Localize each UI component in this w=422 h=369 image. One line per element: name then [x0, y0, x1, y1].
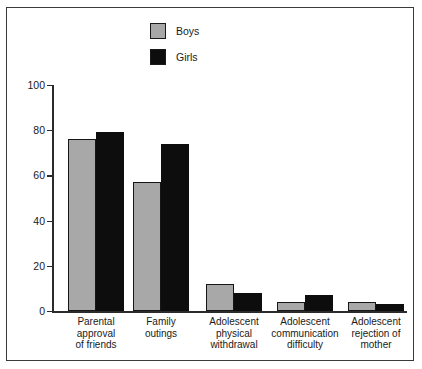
legend-label-girls: Girls: [176, 52, 198, 63]
black-swatch-icon: [150, 49, 166, 65]
bar-chart-figure: Boys Girls 100806040200 Parentalapproval…: [0, 0, 422, 369]
bar-group: [348, 85, 404, 311]
bar-group: [277, 85, 333, 311]
y-tick-label: 40: [33, 215, 45, 227]
bar-group: [206, 85, 262, 311]
bar-boys: [277, 302, 305, 311]
legend-label-boys: Boys: [176, 26, 199, 37]
y-tick-mark: [47, 175, 52, 176]
category-label-line: mother: [331, 339, 421, 351]
y-tick-mark: [47, 130, 52, 131]
bar-girls: [96, 132, 124, 311]
y-tick-mark: [47, 221, 52, 222]
y-axis-line: [52, 85, 54, 311]
legend-item-boys: Boys: [150, 20, 260, 42]
y-tick-label: 100: [27, 79, 45, 91]
bar-group: [68, 85, 124, 311]
y-tick-label: 60: [33, 169, 45, 181]
bar-girls: [305, 295, 333, 311]
legend-item-girls: Girls: [150, 46, 260, 68]
category-label: Adolescentrejection ofmother: [331, 316, 421, 351]
bar-girls: [234, 293, 262, 311]
y-tick-label: 80: [33, 124, 45, 136]
category-label-line: rejection of: [331, 328, 421, 340]
x-axis-line: [52, 311, 407, 313]
y-tick-mark: [47, 311, 52, 312]
plot-area: 100806040200: [52, 85, 407, 311]
y-tick-mark: [47, 266, 52, 267]
category-label-line: of friends: [51, 339, 141, 351]
bar-girls: [161, 144, 189, 311]
bar-boys: [68, 139, 96, 311]
bar-girls: [376, 304, 404, 311]
bar-group: [133, 85, 189, 311]
category-label-line: Adolescent: [331, 316, 421, 328]
y-tick-label: 0: [39, 305, 45, 317]
chart-legend: Boys Girls: [150, 20, 260, 72]
y-tick-mark: [47, 85, 52, 86]
y-tick-label: 20: [33, 260, 45, 272]
gray-swatch-icon: [150, 23, 166, 39]
bar-boys: [133, 182, 161, 311]
bar-boys: [206, 284, 234, 311]
bar-boys: [348, 302, 376, 311]
